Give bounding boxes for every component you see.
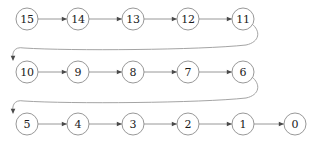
arrow-icon-7-6 — [227, 70, 232, 75]
node-label-9: 9 — [75, 66, 82, 79]
node-5[interactable]: 5 — [16, 113, 38, 135]
arrow-icon-12-11 — [227, 17, 232, 22]
node-13[interactable]: 13 — [122, 8, 144, 30]
arrow-icon-1-0 — [279, 122, 284, 127]
arrow-icon-3-2 — [172, 122, 177, 127]
node-label-1: 1 — [240, 118, 247, 131]
edge-9-to-8 — [89, 70, 122, 75]
arrow-icon-9-8 — [117, 70, 122, 75]
node-0[interactable]: 0 — [284, 113, 306, 135]
node-6[interactable]: 6 — [232, 61, 254, 83]
arrow-icon-8-7 — [172, 70, 177, 75]
node-7[interactable]: 7 — [177, 61, 199, 83]
arrow-icon-4-3 — [117, 122, 122, 127]
node-label-4: 4 — [75, 118, 82, 131]
arrow-icon-13-12 — [172, 17, 177, 22]
arrow-icon-5-4 — [62, 122, 67, 127]
node-3[interactable]: 3 — [122, 113, 144, 135]
node-label-11: 11 — [236, 13, 250, 26]
linked-list-diagram: 1514131211109876543210 — [0, 0, 317, 150]
diagram-canvas: 1514131211109876543210 — [0, 0, 317, 150]
edge-8-to-7 — [144, 70, 177, 75]
node-label-10: 10 — [20, 66, 34, 79]
node-11[interactable]: 11 — [232, 8, 254, 30]
node-12[interactable]: 12 — [177, 8, 199, 30]
edge-1-to-0 — [254, 122, 284, 127]
node-label-6: 6 — [240, 66, 247, 79]
node-layer: 1514131211109876543210 — [16, 8, 306, 135]
node-label-14: 14 — [71, 13, 85, 26]
edge-2-to-1 — [199, 122, 232, 127]
node-2[interactable]: 2 — [177, 113, 199, 135]
arrow-icon-11-10 — [11, 56, 16, 61]
edge-7-to-6 — [199, 70, 232, 75]
node-9[interactable]: 9 — [67, 61, 89, 83]
arrow-icon-10-9 — [62, 70, 67, 75]
edge-14-to-13 — [89, 17, 122, 22]
edge-3-to-2 — [144, 122, 177, 127]
arrow-icon-2-1 — [227, 122, 232, 127]
node-14[interactable]: 14 — [67, 8, 89, 30]
node-8[interactable]: 8 — [122, 61, 144, 83]
edge-12-to-11 — [199, 17, 232, 22]
node-label-5: 5 — [24, 118, 31, 131]
node-15[interactable]: 15 — [16, 8, 38, 30]
edge-4-to-3 — [89, 122, 122, 127]
node-label-15: 15 — [20, 13, 34, 26]
node-label-8: 8 — [130, 66, 137, 79]
node-label-7: 7 — [185, 66, 192, 79]
edge-10-to-9 — [38, 70, 67, 75]
node-label-3: 3 — [130, 118, 137, 131]
node-label-12: 12 — [181, 13, 195, 26]
edge-15-to-14 — [38, 17, 67, 22]
node-label-13: 13 — [126, 13, 140, 26]
node-10[interactable]: 10 — [16, 61, 38, 83]
arrow-icon-14-13 — [117, 17, 122, 22]
arrow-icon-15-14 — [62, 17, 67, 22]
arrow-icon-6-5 — [11, 109, 16, 114]
node-4[interactable]: 4 — [67, 113, 89, 135]
edge-5-to-4 — [38, 122, 67, 127]
node-label-2: 2 — [185, 118, 192, 131]
node-1[interactable]: 1 — [232, 113, 254, 135]
node-label-0: 0 — [292, 118, 299, 131]
edge-13-to-12 — [144, 17, 177, 22]
